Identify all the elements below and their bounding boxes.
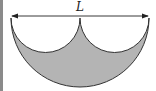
length-label: L: [76, 1, 84, 13]
shaded-region: [11, 18, 149, 87]
